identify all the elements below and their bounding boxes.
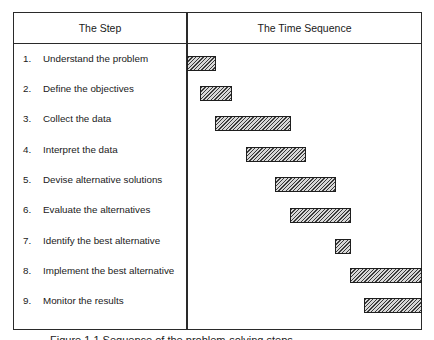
step-row: 1. Understand the problem bbox=[14, 44, 186, 74]
time-bar-step-8 bbox=[350, 268, 422, 283]
step-number: 2. bbox=[23, 74, 31, 104]
step-number: 8. bbox=[23, 256, 31, 286]
time-bar-step-7 bbox=[335, 239, 351, 254]
step-number: 9. bbox=[23, 286, 31, 316]
step-label: Define the objectives bbox=[43, 74, 134, 104]
time-bar-step-9 bbox=[364, 298, 422, 313]
step-label: Implement the best alternative bbox=[43, 256, 174, 286]
header-row: The Step The Time Sequence bbox=[14, 13, 421, 44]
step-row: 6. Evaluate the alternatives bbox=[14, 195, 186, 225]
step-label: Interpret the data bbox=[43, 135, 118, 165]
step-label: Monitor the results bbox=[43, 286, 124, 316]
time-bar-step-6 bbox=[290, 208, 351, 223]
step-number: 5. bbox=[23, 165, 31, 195]
header-step: The Step bbox=[14, 13, 186, 43]
step-label: Devise alternative solutions bbox=[43, 165, 162, 195]
step-row: 5. Devise alternative solutions bbox=[14, 165, 186, 195]
step-label: Understand the problem bbox=[43, 44, 148, 74]
time-bar-step-2 bbox=[200, 86, 232, 101]
step-row: 8. Implement the best alternative bbox=[14, 256, 186, 286]
time-bar-step-4 bbox=[246, 147, 306, 162]
time-bar-step-5 bbox=[275, 177, 336, 192]
step-number: 3. bbox=[23, 104, 31, 134]
step-label: Evaluate the alternatives bbox=[43, 195, 150, 225]
step-number: 1. bbox=[23, 44, 31, 74]
step-number: 4. bbox=[23, 135, 31, 165]
step-label: Collect the data bbox=[43, 104, 111, 134]
step-row: 3. Collect the data bbox=[14, 104, 186, 134]
time-bar-step-1 bbox=[187, 56, 216, 71]
step-row: 9. Monitor the results bbox=[14, 286, 186, 316]
step-number: 6. bbox=[23, 195, 31, 225]
step-label: Identify the best alternative bbox=[43, 226, 160, 256]
step-row: 7. Identify the best alternative bbox=[14, 226, 186, 256]
step-row: 2. Define the objectives bbox=[14, 74, 186, 104]
step-number: 7. bbox=[23, 226, 31, 256]
header-time-sequence: The Time Sequence bbox=[188, 13, 421, 43]
figure-caption: Figure 1.1 Sequence of the problem-solvi… bbox=[50, 332, 293, 340]
time-bar-step-3 bbox=[215, 116, 291, 131]
step-row: 4. Interpret the data bbox=[14, 135, 186, 165]
